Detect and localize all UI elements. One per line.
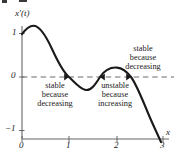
annotation-stable-left-line3: decreasing bbox=[27, 100, 83, 109]
annotation-stable-right: stable because decreasing bbox=[112, 45, 174, 72]
x-axis-label: x bbox=[166, 128, 170, 137]
annotation-stable-left: stable because decreasing bbox=[27, 82, 83, 109]
y-tick-label-neg1: −1 bbox=[5, 124, 16, 133]
y-tick-label-1: 1 bbox=[12, 28, 17, 37]
x-tick-label-1: 1 bbox=[66, 141, 71, 150]
y-axis-label: x′(t) bbox=[15, 9, 29, 18]
x-tick-label-3: 3 bbox=[160, 141, 165, 150]
annotation-unstable-middle: unstable because increasing bbox=[86, 82, 144, 109]
annotation-unstable-middle-line3: increasing bbox=[86, 100, 144, 109]
y-tick-label-0: 0 bbox=[11, 71, 16, 80]
x-tick-label-2: 2 bbox=[114, 141, 119, 150]
figure-container: x′(t) x 1 0 −1 0 1 2 3 stable because de… bbox=[0, 0, 175, 153]
annotation-stable-right-line3: decreasing bbox=[112, 63, 174, 72]
x-tick-label-0: 0 bbox=[19, 141, 24, 150]
plot-canvas bbox=[0, 0, 175, 153]
